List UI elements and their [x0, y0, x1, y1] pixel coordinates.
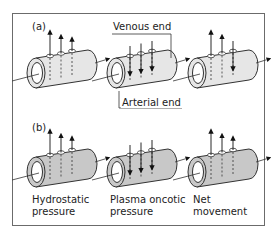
- capillary-hydrostatic-a: [12, 32, 108, 88]
- panel-label-b: (b): [32, 122, 46, 133]
- caption-net: Net movement: [193, 194, 247, 218]
- capillary-net-a: [173, 32, 269, 88]
- arterial-end-label: Arterial end: [121, 97, 182, 108]
- caption-oncotic: Plasma oncotic pressure: [110, 194, 185, 218]
- panel-label-a: (a): [32, 21, 46, 32]
- caption-hydrostatic: Hydrostatic pressure: [32, 194, 89, 218]
- capillary-net-b: [173, 131, 269, 187]
- venous-end-label: Venous end: [112, 21, 172, 32]
- capillary-hydrostatic-b: [12, 131, 108, 187]
